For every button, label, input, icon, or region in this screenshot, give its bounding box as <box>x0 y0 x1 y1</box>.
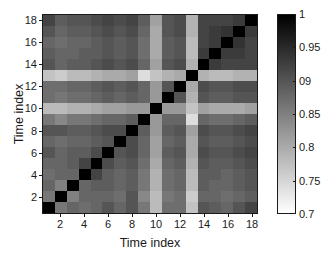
heatmap-cell <box>55 26 67 37</box>
heatmap-cell <box>67 191 79 202</box>
heatmap-cell <box>55 180 67 191</box>
y-tick-label: 4 <box>16 169 37 181</box>
heatmap-cell <box>67 147 79 158</box>
heatmap-cell <box>150 59 162 70</box>
heatmap-cell <box>91 70 103 81</box>
heatmap-cell <box>91 103 103 114</box>
colorbar-tick-label: 0.85 <box>299 108 320 120</box>
heatmap-cell <box>174 125 186 136</box>
heatmap-cell <box>67 202 79 213</box>
heatmap-cell <box>162 70 174 81</box>
heatmap-cell <box>150 158 162 169</box>
heatmap-cell <box>186 114 198 125</box>
heatmap-cell <box>55 103 67 114</box>
heatmap-cell <box>55 70 67 81</box>
heatmap-cell <box>126 147 138 158</box>
heatmap-cell <box>186 59 198 70</box>
heatmap-cell <box>174 114 186 125</box>
heatmap-cell <box>245 180 257 191</box>
heatmap-cell <box>67 103 79 114</box>
heatmap-cell <box>102 103 114 114</box>
y-tick-mark <box>39 20 42 21</box>
heatmap-cell <box>43 103 55 114</box>
colorbar-tick-mark <box>293 181 296 182</box>
heatmap-cell <box>186 147 198 158</box>
heatmap-cell <box>174 202 186 213</box>
heatmap-cell <box>150 103 162 114</box>
heatmap-cell <box>55 48 67 59</box>
heatmap-cell <box>43 136 55 147</box>
heatmap-cell <box>67 114 79 125</box>
heatmap-cell <box>91 202 103 213</box>
heatmap-cell <box>162 169 174 180</box>
heatmap-cell <box>245 48 257 59</box>
heatmap-cell <box>162 15 174 26</box>
heatmap-cell <box>209 48 221 59</box>
heatmap-cell <box>138 169 150 180</box>
heatmap-cell <box>162 59 174 70</box>
heatmap-cell <box>43 15 55 26</box>
heatmap-cell <box>126 103 138 114</box>
heatmap-cell <box>138 125 150 136</box>
heatmap-cell <box>102 26 114 37</box>
heatmap-cell <box>221 59 233 70</box>
x-tick-mark <box>84 214 85 217</box>
heatmap-cell <box>102 81 114 92</box>
heatmap-cell <box>114 180 126 191</box>
heatmap-cell <box>221 48 233 59</box>
heatmap-cell <box>102 114 114 125</box>
heatmap-cell <box>186 202 198 213</box>
heatmap-cell <box>79 147 91 158</box>
heatmap-cell <box>91 191 103 202</box>
heatmap-cell <box>126 81 138 92</box>
heatmap-cell <box>150 147 162 158</box>
heatmap-cell <box>162 147 174 158</box>
colorbar-tick-label: 0.8 <box>299 141 314 153</box>
heatmap-cell <box>221 169 233 180</box>
heatmap-cell <box>186 37 198 48</box>
heatmap-cell <box>245 70 257 81</box>
heatmap-grid <box>43 15 257 213</box>
heatmap-cell <box>114 15 126 26</box>
heatmap-cell <box>221 136 233 147</box>
heatmap-cell <box>186 125 198 136</box>
heatmap-cell <box>114 158 126 169</box>
heatmap-cell <box>162 180 174 191</box>
heatmap-cell <box>162 202 174 213</box>
heatmap-cell <box>138 103 150 114</box>
heatmap-cell <box>126 92 138 103</box>
heatmap-cell <box>245 114 257 125</box>
heatmap-cell <box>245 37 257 48</box>
heatmap-cell <box>114 26 126 37</box>
heatmap-cell <box>138 59 150 70</box>
heatmap-cell <box>233 169 245 180</box>
heatmap-cell <box>209 136 221 147</box>
heatmap-cell <box>233 81 245 92</box>
heatmap-cell <box>91 158 103 169</box>
heatmap-cell <box>126 70 138 81</box>
colorbar-tick-label: 1 <box>299 8 305 20</box>
heatmap-cell <box>114 136 126 147</box>
heatmap-cell <box>162 81 174 92</box>
heatmap-cell <box>67 169 79 180</box>
y-tick-mark <box>39 64 42 65</box>
heatmap-cell <box>126 37 138 48</box>
x-tick-label: 12 <box>174 218 186 230</box>
heatmap-cell <box>138 92 150 103</box>
heatmap-cell <box>186 81 198 92</box>
heatmap-cell <box>186 103 198 114</box>
heatmap-cell <box>198 191 210 202</box>
heatmap-cell <box>174 48 186 59</box>
colorbar-tick-mark <box>293 14 296 15</box>
heatmap-cell <box>43 125 55 136</box>
heatmap-cell <box>245 147 257 158</box>
heatmap-cell <box>102 158 114 169</box>
heatmap-cell <box>150 81 162 92</box>
y-axis-label: Time index <box>12 59 26 169</box>
heatmap-cell <box>114 114 126 125</box>
heatmap-cell <box>198 158 210 169</box>
heatmap-cell <box>138 15 150 26</box>
heatmap-cell <box>138 147 150 158</box>
heatmap-cell <box>221 70 233 81</box>
heatmap-cell <box>114 202 126 213</box>
